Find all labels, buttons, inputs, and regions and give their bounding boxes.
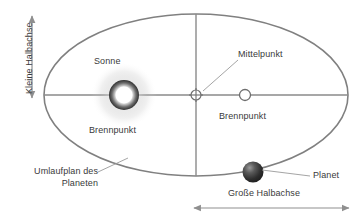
label-focus-right: Brennpunkt bbox=[219, 111, 266, 122]
label-orbit-path: Umlaufplan des Planeten bbox=[22, 165, 98, 189]
sun-core-icon bbox=[116, 87, 133, 104]
planet-sphere-icon bbox=[243, 162, 264, 183]
mittelpunkt-leader-line bbox=[203, 60, 238, 91]
open-circle-icon bbox=[240, 90, 251, 101]
label-planet: Planet bbox=[313, 170, 339, 181]
planet-leader-line bbox=[262, 170, 310, 176]
label-orbit-path-line1: Umlaufplan des bbox=[34, 166, 98, 176]
orbit-diagram: Kleine Halbachse Sonne Brennpunkt Mittel… bbox=[0, 0, 358, 219]
label-orbit-path-line2: Planeten bbox=[62, 178, 98, 188]
label-minor-axis: Kleine Halbachse bbox=[24, 22, 35, 94]
label-sun: Sonne bbox=[94, 56, 121, 67]
label-focus-left: Brennpunkt bbox=[89, 125, 136, 136]
label-major-axis: Große Halbachse bbox=[228, 188, 300, 199]
label-center-point: Mittelpunkt bbox=[238, 49, 283, 60]
orbit-leader-line bbox=[98, 158, 128, 172]
